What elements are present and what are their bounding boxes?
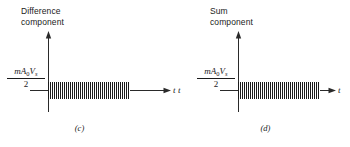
amplitude-denominator: 2 xyxy=(196,79,236,89)
amplitude-numerator: mA0Vs xyxy=(196,67,236,78)
waveform-burst xyxy=(48,82,130,99)
waveform-burst xyxy=(238,82,320,99)
figure-panel-difference: Difference component mA0Vs 2 t (c) xyxy=(0,0,175,147)
subfigure-caption: (c) xyxy=(0,123,167,133)
amplitude-denominator: 2 xyxy=(6,79,46,89)
subfigure-caption: (d) xyxy=(178,123,350,133)
x-axis-label: t xyxy=(338,85,341,95)
amplitude-numerator: mA0Vs xyxy=(6,67,46,78)
x-axis-label-left: t xyxy=(178,85,181,95)
amplitude-label: mA0Vs 2 xyxy=(6,67,46,90)
amplitude-label: mA0Vs 2 xyxy=(196,67,236,90)
figure-panel-sum: Sum component t mA0Vs 2 t (d) xyxy=(175,0,350,147)
